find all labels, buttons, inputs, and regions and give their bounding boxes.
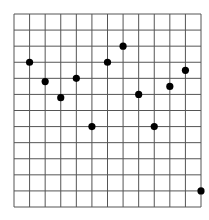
data-point — [57, 94, 64, 101]
data-point — [26, 59, 33, 66]
data-point — [88, 123, 95, 130]
data-point — [104, 59, 111, 66]
data-point — [119, 43, 126, 50]
data-points — [26, 43, 205, 195]
data-point — [182, 67, 189, 74]
data-point — [42, 78, 49, 85]
scatter-plot — [0, 0, 209, 220]
data-point — [166, 83, 173, 90]
data-point — [197, 187, 204, 194]
data-point — [151, 123, 158, 130]
data-point — [135, 91, 142, 98]
data-point — [73, 75, 80, 82]
grid-lines — [14, 14, 201, 207]
